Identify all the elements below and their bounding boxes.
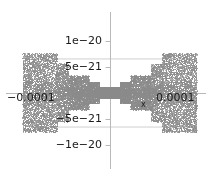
x-tick-label-neg-0.0001: −0.0001 [7, 92, 55, 103]
y-tick-label-neg-1e-20: −1e−20 [33, 139, 102, 150]
y-tick-label-5e-21: 5e−21 [36, 61, 102, 72]
y-tick-label-1e-20: 1e−20 [36, 35, 102, 46]
y-tick-label-neg-5e-21: −5e−21 [33, 113, 102, 124]
x-axis-title: x [141, 101, 146, 109]
x-tick-label-0.0001: 0.0001 [156, 92, 195, 103]
scatter-plot-figure: 1e−20 5e−21 −5e−21 −1e−20 −0.0001 0.0001… [0, 0, 212, 181]
